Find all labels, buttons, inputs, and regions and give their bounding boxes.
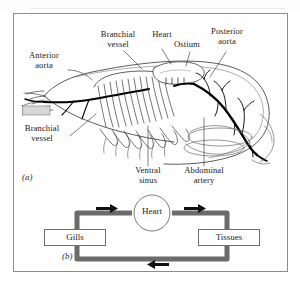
scan-top-margin: [0, 0, 300, 13]
label-branchial-vessel-bottom: Branchial vessel: [12, 124, 72, 143]
panel-a-anatomical-diagram: Branchial vessel Heart Ostium Posterior …: [14, 14, 287, 191]
node-tissues-box: Tissues: [198, 229, 260, 246]
label-ventral-sinus: Ventral sinus: [120, 166, 176, 185]
label-abdominal-artery: Abdominal artery: [172, 166, 236, 185]
label-posterior-aorta: Posterior aorta: [198, 27, 256, 46]
panel-b-circulation-diagram: Gills Heart Tissues (b): [14, 191, 287, 273]
label-anterior-aorta: Anterior aorta: [16, 51, 72, 70]
panel-a-tag: (a): [22, 172, 33, 182]
figure-frame: Branchial vessel Heart Ostium Posterior …: [13, 13, 288, 272]
label-branchial-vessel-top: Branchial vessel: [88, 30, 148, 49]
node-heart-label: Heart: [132, 206, 172, 216]
loop-segment-tissues-to-gills: [77, 253, 227, 259]
panel-b-tag: (b): [62, 251, 73, 261]
node-gills-box: Gills: [44, 229, 106, 246]
